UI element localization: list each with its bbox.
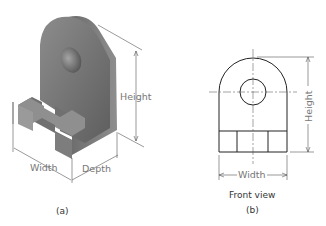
width-label: Width — [30, 162, 58, 173]
front-height-label: Height — [303, 90, 314, 122]
caption-b: (b) — [246, 205, 259, 215]
front-width-label: Width — [238, 169, 266, 180]
front-view-title: Front view — [229, 190, 275, 200]
depth-label: Depth — [82, 163, 111, 174]
height-label: Height — [120, 91, 152, 102]
isometric-view: Height Width Depth (a) — [13, 16, 152, 216]
front-view — [209, 49, 297, 164]
drawing-canvas: Height Width Depth (a) Heigh — [0, 0, 326, 226]
caption-a: (a) — [56, 206, 69, 216]
solid-base-front-right — [55, 132, 72, 159]
